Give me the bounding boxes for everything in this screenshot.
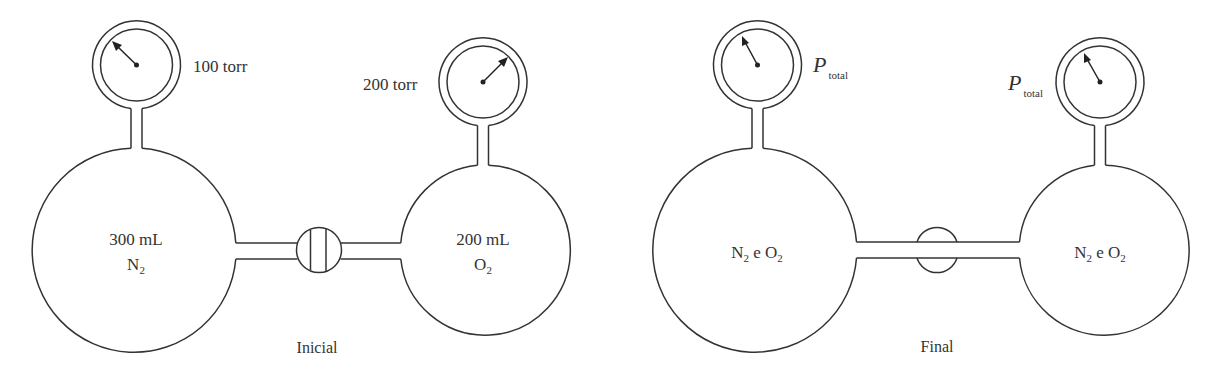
left-flask-final	[653, 109, 857, 353]
stopcock-open-icon	[917, 227, 957, 272]
gauge-reading-right-final: Ptotal	[1007, 70, 1043, 99]
flask-gas-left-initial: N2	[127, 255, 145, 276]
caption-final: Final	[921, 338, 954, 355]
gauge-reading-right-initial: 200 torr	[363, 75, 418, 94]
flask-volume-left-initial: 300 mL	[109, 230, 162, 249]
connecting-tube-initial	[236, 243, 401, 259]
flask-contents-left-final: N2 e O2	[731, 243, 783, 264]
panel-initial: 100 torr 200 torr 300 m	[32, 21, 570, 356]
connecting-tube-final	[857, 242, 1020, 258]
gas-mixing-diagram: 100 torr 200 torr 300 m	[0, 0, 1210, 377]
pressure-gauge-icon	[1056, 38, 1144, 126]
gauge-reading-left-final: Ptotal	[812, 52, 848, 81]
pressure-gauge-icon	[93, 21, 181, 109]
panel-final: Ptotal Ptotal N2 e O2 N2 e O2 Fi	[653, 21, 1189, 355]
caption-initial: Inicial	[297, 339, 338, 356]
gauge-reading-left-initial: 100 torr	[193, 57, 248, 76]
pressure-gauge-icon	[714, 21, 802, 109]
right-flask-final	[1020, 126, 1190, 336]
stopcock-closed-icon	[297, 228, 342, 273]
flask-gas-right-initial: O2	[474, 255, 492, 276]
flask-contents-right-final: N2 e O2	[1074, 243, 1126, 264]
flask-volume-right-initial: 200 mL	[456, 230, 509, 249]
pressure-gauge-icon	[439, 38, 527, 126]
